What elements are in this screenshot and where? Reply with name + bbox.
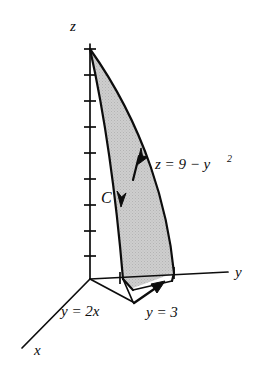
coordinate-diagram: z y x C z = 9 − y 2 y = 2x y = 3 xyxy=(0,0,259,373)
z-axis xyxy=(84,44,96,279)
plane-line-label: y = 2x xyxy=(59,303,100,319)
figure-container: z y x C z = 9 − y 2 y = 2x y = 3 xyxy=(0,0,259,373)
z-axis-label: z xyxy=(69,18,76,34)
x-axis-label: x xyxy=(33,342,41,358)
curve-label-C: C xyxy=(101,189,112,206)
surface-equation-text: z = 9 − y xyxy=(154,156,211,172)
surface-equation-label: z = 9 − y 2 xyxy=(154,153,232,172)
bound-line-label: y = 3 xyxy=(144,304,178,320)
surface-equation-exponent: 2 xyxy=(227,153,232,164)
y-axis-label: y xyxy=(233,264,242,280)
